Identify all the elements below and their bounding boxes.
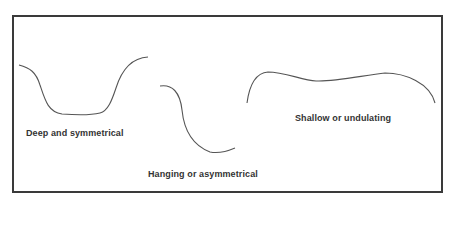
deep-symmetrical-profile [19, 57, 148, 115]
deep-symmetrical-label: Deep and symmetrical [26, 128, 124, 138]
hanging-asymmetrical-label: Hanging or asymmetrical [148, 169, 258, 179]
hanging-asymmetrical-profile [160, 86, 235, 153]
shallow-undulating-label: Shallow or undulating [295, 113, 391, 123]
shallow-undulating-profile [247, 72, 435, 103]
